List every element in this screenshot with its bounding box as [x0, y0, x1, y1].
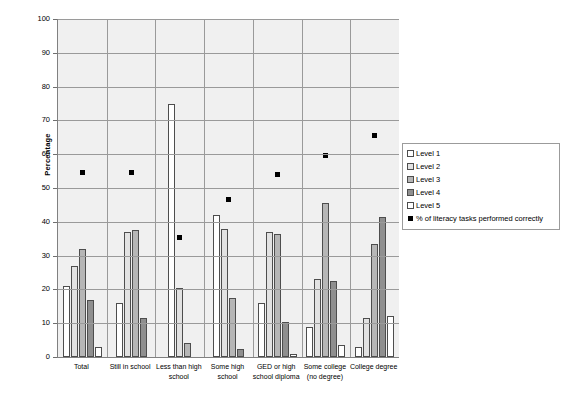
scatter-marker [80, 170, 85, 175]
x-category-label: College degree [349, 362, 398, 372]
x-axis-category-labels: TotalStill in schoolLess than high schoo… [57, 362, 398, 406]
bar [184, 343, 191, 357]
legend-swatch-icon [407, 176, 414, 183]
bar [213, 215, 220, 357]
y-tick-label: 0 [22, 353, 50, 361]
gridline [58, 188, 399, 189]
y-tick-mark [53, 222, 57, 223]
legend-item[interactable]: Level 5 [407, 199, 556, 212]
x-category-label: Some college (no degree) [301, 362, 350, 381]
legend-item[interactable]: Level 1 [407, 147, 556, 160]
gridline [58, 120, 399, 121]
gridline [58, 19, 399, 20]
bar [274, 234, 281, 357]
legend-swatch-icon [407, 150, 414, 157]
scatter-marker [275, 172, 280, 177]
bar [71, 266, 78, 357]
y-tick-label: 10 [22, 319, 50, 327]
scatter-marker [129, 170, 134, 175]
gridline [58, 289, 399, 290]
y-tick-mark [53, 120, 57, 121]
scatter-marker [372, 133, 377, 138]
bar [124, 232, 131, 357]
bar [237, 349, 244, 357]
bar [229, 298, 236, 357]
x-category-label: Some high school [203, 362, 252, 381]
x-category-label: GED or high school diploma [252, 362, 301, 381]
bar [371, 244, 378, 357]
gridline [58, 222, 399, 223]
y-tick-mark [53, 53, 57, 54]
bar [266, 232, 273, 357]
bar [221, 229, 228, 357]
legend-label: Level 5 [416, 201, 440, 210]
bar [330, 281, 337, 357]
legend-item[interactable]: Level 3 [407, 173, 556, 186]
bar [306, 327, 313, 357]
gridline [58, 323, 399, 324]
bar [258, 303, 265, 357]
legend-swatch-icon [407, 202, 414, 209]
legend-swatch-icon [407, 163, 414, 170]
bar [322, 203, 329, 357]
y-tick-mark [53, 87, 57, 88]
gridline [58, 256, 399, 257]
bar [132, 230, 139, 357]
y-tick-label: 30 [22, 252, 50, 260]
y-tick-mark [53, 357, 57, 358]
legend-label: Level 1 [416, 149, 440, 158]
bar [63, 286, 70, 357]
bar [116, 303, 123, 357]
x-category-label: Total [57, 362, 106, 372]
y-tick-label: 60 [22, 150, 50, 158]
legend-label: Level 2 [416, 162, 440, 171]
bar [355, 347, 362, 357]
bar [338, 345, 345, 357]
gridline [58, 53, 399, 54]
y-tick-label: 100 [22, 15, 50, 23]
legend-label: Level 4 [416, 188, 440, 197]
legend-item[interactable]: Level 2 [407, 160, 556, 173]
x-category-label: Less than high school [154, 362, 203, 381]
bar [87, 300, 94, 357]
chart-legend: Level 1Level 2Level 3Level 4Level 5% of … [402, 143, 560, 230]
y-tick-mark [53, 154, 57, 155]
legend-swatch-icon [408, 216, 413, 221]
legend-item[interactable]: % of literacy tasks performed correctly [407, 212, 556, 225]
bar [79, 249, 86, 357]
y-tick-label: 80 [22, 83, 50, 91]
bar [379, 217, 386, 357]
y-tick-mark [53, 256, 57, 257]
legend-item[interactable]: Level 4 [407, 186, 556, 199]
scatter-marker [226, 197, 231, 202]
bar [290, 354, 297, 357]
y-tick-mark [53, 289, 57, 290]
bar [282, 322, 289, 357]
y-tick-mark [53, 323, 57, 324]
bar [95, 347, 102, 357]
scatter-marker [177, 235, 182, 240]
y-tick-mark [53, 188, 57, 189]
y-tick-label: 90 [22, 49, 50, 57]
legend-label: Level 3 [416, 175, 440, 184]
legend-label: % of literacy tasks performed correctly [416, 214, 543, 223]
gridline [58, 87, 399, 88]
bar [314, 279, 321, 357]
y-tick-label: 40 [22, 218, 50, 226]
y-tick-label: 50 [22, 184, 50, 192]
bar-chart: Percentage 0102030405060708090100 TotalS… [0, 0, 567, 408]
bar [168, 104, 175, 358]
legend-swatch-icon [407, 189, 414, 196]
x-category-label: Still in school [106, 362, 155, 372]
gridline [58, 154, 399, 155]
y-tick-mark [53, 19, 57, 20]
y-tick-label: 20 [22, 285, 50, 293]
y-tick-label: 70 [22, 116, 50, 124]
plot-area [57, 19, 399, 358]
